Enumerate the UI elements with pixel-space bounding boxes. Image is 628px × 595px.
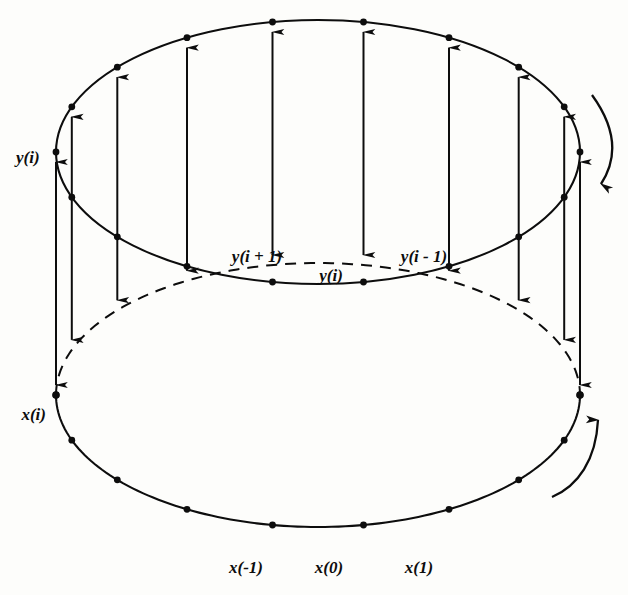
upper-circle-point [269, 279, 276, 286]
lower-circle-point [561, 437, 568, 444]
upper-circle-outline [56, 20, 580, 284]
upper-circle-point [561, 103, 568, 110]
lower-circle-point [114, 476, 121, 483]
upper-circle-point [577, 149, 584, 156]
label-y-i-left: y(i) [14, 148, 40, 167]
upper-circle-point [68, 103, 75, 110]
rotation-arrow-down-icon [592, 95, 612, 184]
rotation-arrow-group [552, 95, 612, 497]
upper-circle-point [446, 34, 453, 41]
label-y-i-center: y(i) [317, 266, 343, 285]
diagram-canvas: y(i) y(i + 1) y(i) y(i - 1) x(i) x(-1) x… [0, 0, 628, 595]
lower-circle-point [515, 476, 522, 483]
rotation-arrow-up-icon [552, 420, 598, 497]
upper-circle-point [515, 64, 522, 71]
lower-circle-back-dashed-arc [56, 263, 580, 395]
label-x-i-left: x(i) [20, 405, 46, 424]
lower-circle-point [360, 522, 367, 529]
lower-circle-front-arc [56, 395, 580, 527]
vertical-connector-arrow-group [56, 32, 580, 385]
upper-circle-point [360, 19, 367, 26]
lower-circle-point [184, 506, 191, 513]
lower-circle-point [446, 506, 453, 513]
lower-circle-point [68, 437, 75, 444]
upper-circle-point [515, 233, 522, 240]
upper-circle-point [114, 64, 121, 71]
lower-circle-point-group [52, 391, 584, 528]
label-y-i-minus-1: y(i - 1) [399, 247, 447, 266]
upper-circle [56, 20, 580, 284]
lower-circle-front-arc [56, 395, 580, 527]
lower-circle-point [269, 522, 276, 529]
upper-circle-point [269, 19, 276, 26]
upper-circle-point [68, 194, 75, 201]
cylinder-diagram-figure: y(i) y(i + 1) y(i) y(i - 1) x(i) x(-1) x… [0, 0, 628, 595]
label-x-0: x(0) [314, 558, 343, 577]
upper-circle-point [184, 263, 191, 270]
label-x-1: x(1) [404, 558, 433, 577]
upper-circle-point [184, 34, 191, 41]
lower-circle-point [576, 391, 584, 399]
label-x-minus-1: x(-1) [228, 558, 263, 577]
upper-circle-point [360, 279, 367, 286]
lower-circle-point [52, 391, 60, 399]
upper-circle-point [561, 194, 568, 201]
upper-circle-point [53, 149, 60, 156]
upper-circle-point [114, 233, 121, 240]
lower-circle-back-arc [56, 263, 580, 395]
label-y-i-plus-1: y(i + 1) [230, 247, 282, 266]
